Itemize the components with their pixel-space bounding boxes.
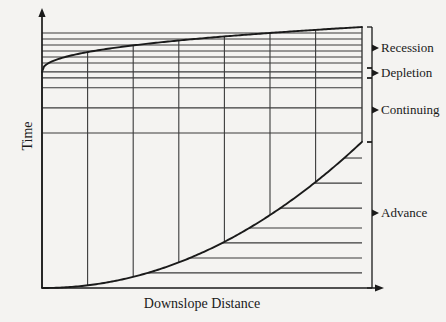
phase-label-recession: Recession [381, 40, 434, 56]
bracket-layer [367, 27, 379, 288]
x-axis-label: Downslope Distance [0, 296, 404, 312]
phase-label-continuing: Continuing [381, 102, 440, 118]
bracket-advance [367, 142, 379, 288]
curve-layer [42, 27, 362, 288]
bracket-depletion [367, 68, 379, 78]
phase-label-depletion: Depletion [381, 65, 432, 81]
phase-label-advance: Advance [381, 205, 427, 221]
bracket-recession [367, 27, 379, 68]
y-axis-label: Time [20, 106, 36, 166]
bracket-continuing [367, 78, 379, 142]
grid-layer [42, 27, 362, 288]
irrigation-phase-diagram [0, 0, 446, 322]
